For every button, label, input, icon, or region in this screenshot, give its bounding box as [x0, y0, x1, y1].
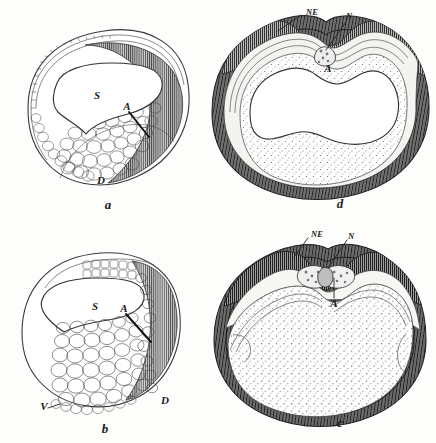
panel-c-drawing: NE N A c — [200, 222, 436, 443]
label-s-panel-a: S — [94, 89, 100, 101]
leader-line-v-label-b — [48, 404, 60, 408]
panel-a-drawing: S A D a — [0, 0, 218, 222]
panel-caption-b: b — [102, 421, 109, 436]
label-s-panel-b: S — [92, 300, 98, 312]
panel-d: NE N A d — [200, 0, 436, 222]
label-a-panel-c: A — [329, 297, 337, 309]
label-n-panel-d: N — [345, 11, 353, 21]
figure-plate: S A D a — [0, 0, 436, 443]
label-d-panel-a: D — [96, 174, 105, 186]
label-a-panel-a: A — [122, 100, 130, 112]
label-ne-panel-d: NE — [305, 7, 318, 17]
panel-c: NE N A c — [200, 222, 436, 443]
label-d-panel-b: D — [160, 394, 169, 406]
panel-caption-d: d — [337, 196, 344, 211]
cavity-a-d — [250, 68, 399, 144]
panel-a: S A D a — [0, 0, 218, 222]
label-a-panel-b: A — [119, 302, 127, 314]
label-n-panel-c: N — [347, 231, 355, 241]
label-v-panel-b: V — [40, 400, 49, 412]
panel-b: S A V D b — [0, 228, 218, 443]
panel-caption-a: a — [105, 197, 112, 212]
panel-caption-c: c — [337, 415, 343, 430]
label-a-panel-d: A — [323, 62, 331, 74]
label-ne-panel-c: NE — [310, 229, 323, 239]
neural-groove-detail-c — [297, 266, 354, 289]
panel-b-drawing: S A V D b — [0, 228, 218, 443]
panel-d-drawing: NE N A d — [200, 0, 436, 222]
